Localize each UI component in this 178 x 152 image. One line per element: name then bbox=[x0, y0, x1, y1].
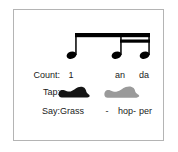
say-word-dash: - bbox=[102, 103, 112, 119]
tap-shoe-black-icon bbox=[56, 84, 92, 102]
secondary-beam bbox=[120, 40, 150, 43]
say-word-per: per bbox=[139, 103, 161, 119]
tap-row: Tap: bbox=[14, 84, 165, 102]
say-row: Say: Grass - hop- per bbox=[14, 103, 165, 119]
count-row-label: Count: bbox=[14, 67, 60, 83]
figure-root: Count: 1 an da Tap: Say: Grass - bbox=[0, 0, 178, 152]
tap-shoe-gray-icon bbox=[102, 84, 142, 102]
figure-frame: Count: 1 an da Tap: Say: Grass - bbox=[13, 9, 164, 141]
count-value-da: da bbox=[134, 67, 154, 83]
say-word-grass: Grass bbox=[60, 103, 98, 119]
tap-row-label: Tap: bbox=[14, 84, 60, 100]
count-row: Count: 1 an da bbox=[14, 67, 165, 83]
say-row-label: Say: bbox=[14, 103, 60, 119]
music-notation bbox=[14, 10, 165, 62]
primary-beam bbox=[75, 33, 150, 37]
count-value-an: an bbox=[110, 67, 130, 83]
rhythm-notation-svg bbox=[14, 10, 165, 62]
stem-note-2 bbox=[120, 33, 122, 55]
count-value-1: 1 bbox=[60, 67, 82, 83]
stem-note-1 bbox=[75, 33, 77, 55]
stem-note-3 bbox=[148, 33, 150, 55]
